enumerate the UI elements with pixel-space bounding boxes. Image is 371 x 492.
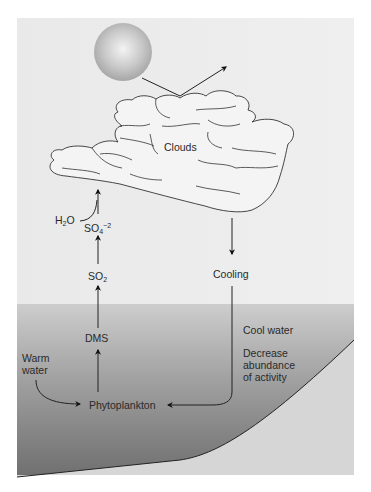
so4-main: SO [84,222,99,234]
so4-sub: 4 [99,228,103,235]
h2o-tail: O [67,214,75,226]
dms-climate-feedback-diagram: Clouds H2O SO4−2 SO2 DMS Warm water Phyt… [0,0,371,492]
h2o-label: H2O [55,214,75,230]
cool-water-label: Cool water [243,324,293,336]
sun-icon [94,23,152,81]
so2-sub: 2 [103,276,107,283]
clouds-label: Clouds [164,141,197,153]
decrease-label-line2: abundance [243,359,295,371]
decrease-label-line1: Decrease [243,347,288,359]
clouds-label-text: Clouds [164,141,197,153]
cooling-label: Cooling [213,268,249,280]
warm-water-label-line1: Warm [22,352,50,364]
phytoplankton-label: Phytoplankton [89,399,156,411]
so2-label: SO2 [88,270,107,286]
warm-water-label-line2: water [22,364,48,376]
so4-label: SO4−2 [84,220,111,238]
so2-main: SO [88,270,103,282]
so4-sup: −2 [103,222,111,229]
dms-label: DMS [85,332,108,344]
h2o-main: H [55,214,63,226]
diagram-canvas [0,0,371,492]
decrease-label-line3: of activity [243,371,287,383]
